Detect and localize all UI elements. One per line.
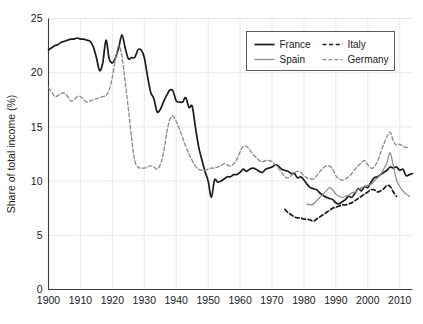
legend-label-germany: Germany [348,54,389,65]
y-tick-label: 10 [31,175,43,187]
y-axis-tick-labels: 0510152025 [31,12,43,295]
series-line-spain [307,153,409,205]
line-chart: 1900191019201930194019501960197019801990… [0,0,423,324]
y-tick-label: 15 [31,121,43,133]
x-tick-label: 1920 [101,294,125,306]
x-tick-label: 2000 [356,294,380,306]
y-tick-label: 20 [31,66,43,78]
y-tick-label: 0 [37,283,43,295]
x-tick-label: 1980 [292,294,316,306]
chart-container: 1900191019201930194019501960197019801990… [0,0,423,324]
x-tick-label: 1910 [69,294,93,306]
y-tick-label: 5 [37,229,43,241]
x-tick-label: 1940 [165,294,189,306]
x-tick-label: 1900 [37,294,61,306]
x-tick-label: 1990 [324,294,348,306]
legend-label-france: France [280,39,312,50]
x-tick-label: 1930 [133,294,157,306]
y-axis-title: Share of total income (%) [5,95,17,213]
x-tick-label: 1950 [196,294,220,306]
x-tick-label: 2010 [388,294,412,306]
x-tick-label: 1960 [228,294,252,306]
legend-label-italy: Italy [348,39,366,50]
x-tick-label: 1970 [260,294,284,306]
legend-label-spain: Spain [280,54,306,65]
y-tick-label: 25 [31,12,43,24]
x-axis-tick-labels: 1900191019201930194019501960197019801990… [37,294,412,306]
chart-legend: FranceItalySpainGermany [247,32,395,71]
